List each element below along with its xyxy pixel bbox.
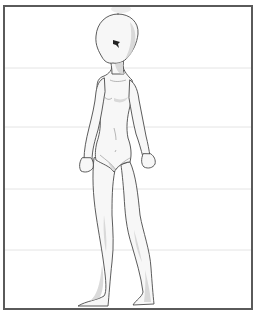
illustration-canvas — [0, 0, 257, 316]
leg-left — [78, 158, 115, 306]
leg-right — [121, 162, 154, 305]
figure — [78, 14, 155, 306]
foot-left-shade — [90, 265, 103, 301]
arm-right — [129, 80, 150, 157]
fist-left — [80, 158, 94, 172]
fist-right — [142, 154, 156, 168]
figure-drawing — [0, 0, 257, 316]
